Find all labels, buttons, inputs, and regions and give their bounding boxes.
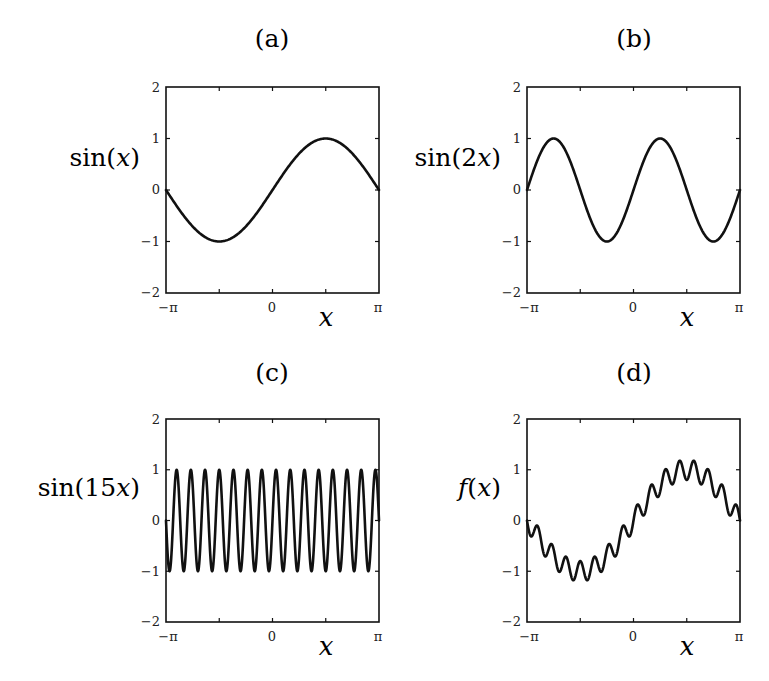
panel-c-x-ticks: −π 0 π: [158, 629, 382, 644]
panel-a-xlabel: x: [319, 302, 334, 332]
svg-text:0: 0: [268, 629, 276, 644]
panel-a: (a) sin(x) 2 1 0 −1 −2 −π 0 π x: [69, 24, 382, 332]
svg-text:2: 2: [513, 412, 521, 427]
panel-b-x-ticks: −π 0 π: [519, 300, 743, 315]
svg-text:0: 0: [152, 513, 160, 528]
svg-text:π: π: [374, 300, 383, 315]
svg-text:0: 0: [152, 182, 160, 197]
svg-text:1: 1: [513, 462, 521, 477]
panel-d-x-ticks: −π 0 π: [519, 629, 743, 644]
panel-b-ylabel: sin(2x): [415, 143, 501, 172]
svg-text:1: 1: [513, 131, 521, 146]
panel-c-title: (c): [255, 358, 289, 387]
svg-text:−π: −π: [158, 300, 178, 315]
svg-text:−2: −2: [502, 285, 521, 300]
panel-b-y-ticks: 2 1 0 −1 −2: [502, 80, 521, 300]
panel-d: (d) ff((x) 2 1 0 −1 −2 −π 0 π x: [456, 358, 744, 661]
svg-text:0: 0: [513, 513, 521, 528]
svg-text:2: 2: [513, 80, 521, 95]
panel-a-x-ticks: −π 0 π: [158, 300, 382, 315]
panel-a-curve-sin-x: [166, 139, 379, 242]
panel-d-xlabel: x: [680, 631, 695, 661]
svg-text:−2: −2: [502, 614, 521, 629]
svg-text:π: π: [735, 629, 744, 644]
svg-text:−π: −π: [158, 629, 178, 644]
svg-text:0: 0: [629, 629, 637, 644]
svg-text:−1: −1: [141, 234, 160, 249]
panel-d-y-ticks: 2 1 0 −1 −2: [502, 412, 521, 629]
panel-d-title: (d): [616, 358, 652, 387]
panel-b-xlabel: x: [680, 302, 695, 332]
svg-text:2: 2: [152, 412, 160, 427]
panel-a-ylabel: sin(x): [69, 143, 140, 172]
svg-text:1: 1: [152, 462, 160, 477]
svg-text:−1: −1: [502, 564, 521, 579]
svg-text:0: 0: [268, 300, 276, 315]
svg-text:−π: −π: [519, 300, 539, 315]
panel-a-y-ticks: 2 1 0 −1 −2: [141, 80, 160, 300]
svg-text:2: 2: [152, 80, 160, 95]
svg-text:0: 0: [629, 300, 637, 315]
panel-c: (c) sin(15x) 2 1 0 −1 −2 −π 0 π x: [38, 358, 383, 661]
panel-c-ylabel: sin(15x): [38, 473, 140, 502]
panel-c-xlabel: x: [319, 631, 334, 661]
panel-c-curve-sin-15x: [166, 470, 379, 572]
svg-text:π: π: [374, 629, 383, 644]
svg-text:−2: −2: [141, 614, 160, 629]
panel-a-title: (a): [255, 24, 289, 53]
panel-b: (b) sin(2x) 2 1 0 −1 −2 −π 0 π x: [415, 24, 744, 332]
svg-text:−π: −π: [519, 629, 539, 644]
svg-text:π: π: [735, 300, 744, 315]
svg-text:−1: −1: [502, 234, 521, 249]
svg-text:0: 0: [513, 182, 521, 197]
panel-c-y-ticks: 2 1 0 −1 −2: [141, 412, 160, 629]
panel-b-title: (b): [616, 24, 652, 53]
figure: (a) sin(x) 2 1 0 −1 −2 −π 0 π x (b) sin(…: [0, 0, 769, 681]
svg-text:1: 1: [152, 131, 160, 146]
svg-text:−1: −1: [141, 564, 160, 579]
panel-d-curve-f-x: [527, 461, 740, 581]
panel-b-curve-sin-2x: [527, 139, 740, 242]
svg-text:−2: −2: [141, 285, 160, 300]
panel-d-ylabel: ff((x): [456, 473, 501, 502]
